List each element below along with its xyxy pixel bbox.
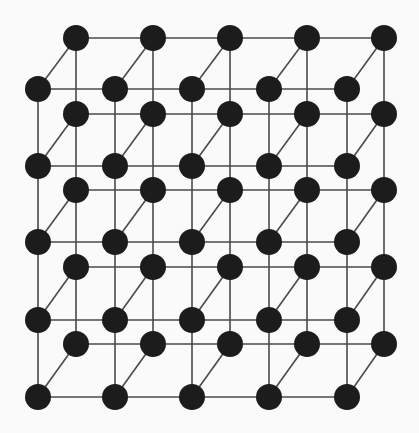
back-atom <box>217 101 243 127</box>
back-atom <box>294 101 320 127</box>
front-atom <box>179 307 205 333</box>
back-atom <box>140 331 166 357</box>
back-atom <box>63 177 89 203</box>
back-atom <box>371 331 397 357</box>
front-atom <box>25 384 51 410</box>
back-atom <box>294 331 320 357</box>
front-atom <box>25 153 51 179</box>
front-atom <box>256 76 282 102</box>
front-atom <box>334 153 360 179</box>
depth-bonds <box>38 38 384 397</box>
back-atom <box>63 101 89 127</box>
back-atom <box>217 177 243 203</box>
back-atom <box>63 331 89 357</box>
front-atom <box>25 76 51 102</box>
back-atom <box>63 254 89 280</box>
front-atom <box>25 229 51 255</box>
back-atom <box>294 177 320 203</box>
front-atom <box>256 153 282 179</box>
cubic-lattice-diagram <box>0 0 419 433</box>
back-atom <box>371 101 397 127</box>
back-atom <box>140 101 166 127</box>
back-atom <box>371 254 397 280</box>
front-atom <box>179 153 205 179</box>
back-atom <box>371 177 397 203</box>
back-atom <box>140 177 166 203</box>
front-atom <box>334 229 360 255</box>
back-atom <box>217 25 243 51</box>
front-atom <box>102 76 128 102</box>
front-atom <box>102 153 128 179</box>
front-atom <box>179 76 205 102</box>
front-atom <box>25 307 51 333</box>
back-atom <box>140 25 166 51</box>
front-atom <box>256 307 282 333</box>
front-atom <box>256 384 282 410</box>
back-atom <box>217 331 243 357</box>
back-atom <box>140 254 166 280</box>
front-atom <box>179 229 205 255</box>
back-atom <box>371 25 397 51</box>
front-atom <box>256 229 282 255</box>
front-atom <box>102 229 128 255</box>
front-atom <box>334 307 360 333</box>
back-atom <box>217 254 243 280</box>
back-atom <box>294 254 320 280</box>
front-atom <box>102 307 128 333</box>
front-atom <box>334 384 360 410</box>
back-atom <box>294 25 320 51</box>
back-atom <box>63 25 89 51</box>
front-atom <box>334 76 360 102</box>
front-atom <box>102 384 128 410</box>
lattice-canvas <box>0 0 419 433</box>
front-atom <box>179 384 205 410</box>
